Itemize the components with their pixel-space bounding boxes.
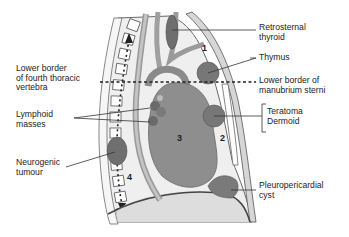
compartment-number-4: 4: [127, 172, 132, 182]
label-pleuropericardial-cyst: Pleuropericardial cyst: [259, 181, 324, 200]
label-line: cyst: [259, 191, 324, 201]
retrosternal-thyroid-mass: [166, 15, 178, 49]
label-thymus: Thymus: [259, 53, 290, 63]
label-line: vertebra: [16, 83, 80, 93]
label-line: manubrium sterni: [259, 86, 325, 96]
label-lower-border-t4: Lower border of fourth thoracic vertebra: [16, 64, 80, 93]
label-retrosternal-thyroid: Retrosternal thyroid: [259, 23, 306, 42]
label-teratoma-dermoid: Teratoma Dermoid: [267, 107, 303, 126]
lymph-node-small: [157, 95, 164, 102]
label-line: masses: [16, 120, 53, 130]
compartment-number-3: 3: [177, 133, 182, 143]
lymphoid-mass-3: [148, 116, 158, 126]
compartment-number-2: 2: [220, 133, 225, 143]
label-line: Dermoid: [267, 117, 303, 127]
label-neurogenic-tumour: Neurogenic tumour: [16, 158, 60, 177]
neurogenic-tumour-mass: [107, 137, 127, 165]
lymphoid-mass-2: [156, 107, 166, 117]
label-lower-border-manubrium: Lower border of manubrium sterni: [259, 76, 325, 95]
compartment-number-1: 1: [202, 43, 207, 53]
label-line: thyroid: [259, 33, 306, 43]
label-lymphoid-masses: Lymphoid masses: [16, 110, 53, 129]
label-line: Thymus: [259, 53, 290, 63]
label-line: tumour: [16, 168, 60, 178]
